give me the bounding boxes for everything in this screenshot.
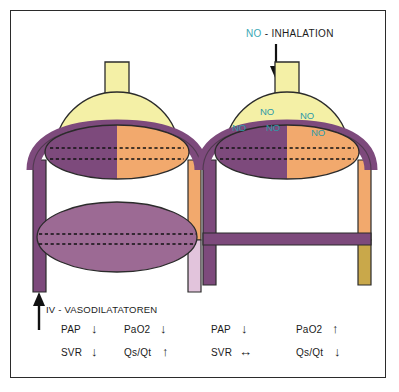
- legend-right-item-2-label: SVR: [211, 347, 232, 358]
- legend-right-item-2-arrow: ↔: [239, 345, 252, 358]
- no-inhalation-header-rest: - INHALATION: [262, 28, 334, 39]
- legend-right-item-1-arrow: ↑: [332, 322, 339, 335]
- right-shunt-connector: [203, 233, 371, 245]
- no-inhalation-header-no: NO: [246, 28, 262, 39]
- legend-left-item-1-arrow: ↓: [160, 322, 167, 335]
- left-shunt-unit: [37, 202, 197, 272]
- iv-vasodilator-caption: IV - VASODILATATOREN: [46, 304, 157, 315]
- right-pulmonary-artery: [203, 160, 216, 285]
- right-pulmonary-vein-upper: [358, 160, 371, 240]
- no-inhalation-header: NO - INHALATION: [246, 28, 334, 39]
- right-panel-artwork: [203, 44, 371, 285]
- legend-left-item-3-arrow: ↑: [162, 345, 169, 358]
- no-gas-label-1: NO: [260, 106, 274, 117]
- iv-vasodilator-arrow-icon: [33, 292, 45, 330]
- legend-left-item-2-label: SVR: [61, 347, 82, 358]
- legend-right-item-3-label: Qs/Qt: [296, 347, 323, 358]
- legend-right-item-0-arrow: ↓: [241, 322, 248, 335]
- legend-left-item-1-label: PaO2: [124, 324, 150, 335]
- no-gas-label-2: NO: [300, 110, 314, 121]
- legend-right-item-0-label: PAP: [211, 324, 231, 335]
- right-pulmonary-vein-lower: [358, 240, 371, 285]
- legend-right-item-1-label: PaO2: [296, 324, 322, 335]
- diagram-artwork: [0, 0, 399, 392]
- legend-left-item-0-arrow: ↓: [91, 322, 98, 335]
- no-gas-label-3: NO: [232, 122, 246, 133]
- left-panel-artwork: [33, 62, 201, 292]
- legend-right-item-3-arrow: ↓: [334, 345, 341, 358]
- legend-left-item-0-label: PAP: [61, 324, 81, 335]
- legend-left-item-2-arrow: ↓: [91, 345, 98, 358]
- legend-left-item-3-label: Qs/Qt: [124, 347, 151, 358]
- no-gas-label-4: NO: [266, 122, 280, 133]
- no-gas-label-5: NO: [311, 127, 325, 138]
- figure-canvas: NO - INHALATION NO NO NO NO NO IV - VASO…: [0, 0, 399, 392]
